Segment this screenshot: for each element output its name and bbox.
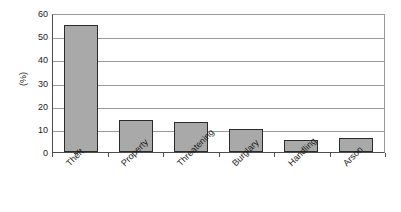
y-tick-label: 10 bbox=[26, 125, 48, 135]
bar-slot bbox=[329, 15, 384, 152]
bar-slot bbox=[274, 15, 329, 152]
bars-layer bbox=[53, 15, 384, 152]
bar bbox=[64, 25, 98, 152]
y-tick-label: 50 bbox=[26, 32, 48, 42]
x-axis-tick-labels: TheftPropertyThreateningBurglaryHandling… bbox=[52, 155, 385, 212]
y-tick-label: 40 bbox=[26, 55, 48, 65]
bar-slot bbox=[108, 15, 163, 152]
y-axis-tick-labels: 60 50 40 30 20 10 0 bbox=[26, 8, 48, 160]
bar-slot bbox=[219, 15, 274, 152]
y-tick-label: 60 bbox=[26, 9, 48, 19]
y-tick-label: 20 bbox=[26, 102, 48, 112]
bar-slot bbox=[53, 15, 108, 152]
y-tick-label: 30 bbox=[26, 79, 48, 89]
bar-chart: (%) 60 50 40 30 20 10 0 TheftPropertyThr… bbox=[0, 0, 401, 212]
plot-area bbox=[52, 14, 385, 153]
y-tick-label: 0 bbox=[26, 148, 48, 158]
x-tick-mark bbox=[385, 153, 386, 157]
